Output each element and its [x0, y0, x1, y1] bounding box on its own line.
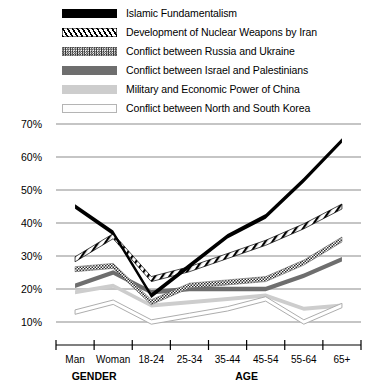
legend-label: Military and Economic Power of China — [126, 84, 300, 95]
legend-swatch-icon — [62, 85, 117, 94]
x-axis-group-label: GENDER — [54, 371, 134, 382]
legend-item: Military and Economic Power of China — [0, 80, 300, 98]
x-axis-group-label: AGE — [207, 371, 287, 382]
legend-item: Development of Nuclear Weapons by Iran — [0, 23, 317, 41]
legend-item: Islamic Fundamentalism — [0, 4, 237, 22]
legend-swatch-icon — [62, 104, 117, 113]
chart-series-layer — [75, 138, 342, 324]
y-axis-tick-label: 40% — [8, 218, 42, 229]
legend-label: Conflict between Israel and Palestinians — [126, 65, 308, 76]
legend-label: Islamic Fundamentalism — [126, 8, 237, 19]
chart-legend: Islamic FundamentalismDevelopment of Nuc… — [0, 0, 369, 118]
chart-series-line — [75, 237, 342, 305]
y-axis-tick-label: 60% — [8, 152, 42, 163]
chart-svg — [0, 118, 369, 390]
legend-item: Conflict between Russia and Ukraine — [0, 42, 295, 60]
legend-swatch-icon — [62, 66, 117, 75]
chart-plot-area: 10%20%30%40%50%60%70%ManWoman18-2425-343… — [0, 118, 369, 390]
y-axis-tick-label: 20% — [8, 284, 42, 295]
y-axis-tick-label: 10% — [8, 317, 42, 328]
legend-label: Development of Nuclear Weapons by Iran — [126, 27, 317, 38]
legend-swatch-icon — [62, 9, 117, 18]
y-axis-tick-label: 70% — [8, 119, 42, 130]
legend-swatch-icon — [62, 47, 117, 56]
y-axis-tick-label: 30% — [8, 251, 42, 262]
y-axis-tick-label: 50% — [8, 185, 42, 196]
legend-item: Conflict between Israel and Palestinians — [0, 61, 308, 79]
chart-figure: Islamic FundamentalismDevelopment of Nuc… — [0, 0, 369, 390]
legend-label: Conflict between Russia and Ukraine — [126, 46, 295, 57]
legend-label: Conflict between North and South Korea — [126, 103, 310, 114]
legend-item: Conflict between North and South Korea — [0, 99, 310, 117]
chart-axis-ticks — [56, 340, 361, 350]
legend-swatch-icon — [62, 28, 117, 37]
x-axis-tick-label: 65+ — [315, 355, 369, 365]
